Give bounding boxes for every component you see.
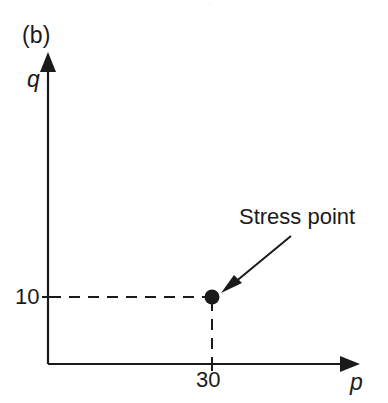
y-tick-label: 10 [15,286,39,308]
y-axis-title: q [27,68,40,91]
annotation-leader-line [234,236,291,283]
stress-point-diagram [0,0,388,403]
figure-container: ·· (b) q p 10 30 Stress point [0,0,388,403]
annotation-arrow-icon [221,275,242,293]
page-edge-artifact: ·· [203,0,211,9]
stress-point-annotation-label: Stress point [239,206,355,228]
y-axis-arrow-icon [40,52,56,72]
x-tick-label: 30 [196,369,220,391]
x-axis-title: p [350,371,363,394]
stress-point-marker [205,290,220,305]
panel-label: (b) [22,24,51,47]
